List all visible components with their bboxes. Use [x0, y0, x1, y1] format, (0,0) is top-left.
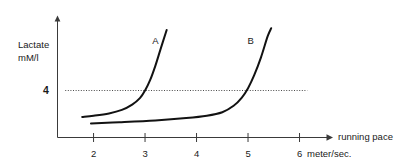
- y-tick-label-4: 4: [43, 84, 49, 96]
- x-tick-label-3: 3: [142, 148, 147, 159]
- chart-canvas: 2 3 4 5 6 meter/sec. running pace Lactat…: [0, 0, 409, 166]
- y-axis-arrow-icon: [55, 16, 61, 22]
- x-tick-label-4: 4: [194, 148, 199, 159]
- x-axis-unit-label: meter/sec.: [307, 148, 351, 159]
- curve-label-b: B: [247, 35, 253, 46]
- x-tick-label-6: 6: [297, 148, 302, 159]
- y-axis: [55, 16, 61, 138]
- x-axis-arrow-icon: [327, 134, 334, 140]
- x-tick-label-2: 2: [91, 148, 96, 159]
- y-axis-title-line2: mM/l: [18, 52, 39, 63]
- lactate-threshold-figure: 2 3 4 5 6 meter/sec. running pace Lactat…: [0, 0, 409, 166]
- x-tick-label-5: 5: [245, 148, 250, 159]
- curve-label-a: A: [152, 35, 159, 46]
- y-axis-title-line1: Lactate: [18, 39, 49, 50]
- x-axis: [58, 134, 334, 140]
- x-axis-title: running pace: [338, 131, 393, 142]
- lactate-curve-b: [91, 28, 271, 123]
